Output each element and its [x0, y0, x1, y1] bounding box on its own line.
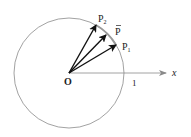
point-label-p2: P2 — [98, 13, 107, 25]
origin-label: O — [64, 76, 72, 87]
unit-circle-diagram: O x 1 P2 P P1 — [0, 0, 191, 137]
unit-label: 1 — [132, 78, 137, 88]
point-label-p1: P1 — [122, 41, 131, 53]
axis-label-x: x — [171, 67, 177, 78]
point-label-pbar: P — [115, 26, 121, 37]
